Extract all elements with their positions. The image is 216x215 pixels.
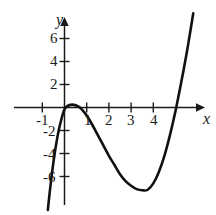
y-tick-label--4: -4 xyxy=(43,147,56,162)
x-tick-label-2: 2 xyxy=(105,113,113,128)
cartesian-plot xyxy=(0,0,216,215)
y-axis-label: y xyxy=(56,12,63,28)
y-tick-label--2: -2 xyxy=(43,124,56,139)
cubic-curve xyxy=(48,13,193,210)
y-tick-label--6: -6 xyxy=(43,170,56,185)
x-tick-label-4: 4 xyxy=(150,113,158,128)
y-tick-label-4: 4 xyxy=(50,54,58,69)
x-tick-label-3: 3 xyxy=(127,113,135,128)
y-tick-label-6: 6 xyxy=(50,31,58,46)
x-tick-label-1: 1 xyxy=(84,113,92,128)
x-axis-label: x xyxy=(203,111,210,127)
y-tick-label-2: 2 xyxy=(50,77,58,92)
graph-figure: -1 1 2 3 4 6 4 2 -2 -4 -6 y x xyxy=(0,0,216,215)
